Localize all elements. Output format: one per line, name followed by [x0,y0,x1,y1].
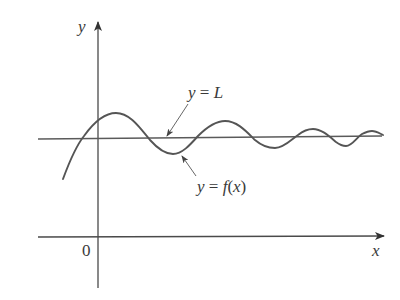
diagram-canvas [0,0,400,300]
asymptote-label-rhs: L [214,83,223,102]
function-curve [63,113,383,179]
asymptote-pointer-arrow [167,104,188,136]
function-label-close: ) [241,177,247,196]
asymptote-label-lhs: y [188,83,196,102]
asymptote-label-eq: = [196,83,214,102]
function-label: y = f(x) [197,178,246,195]
y-axis-label: y [78,18,86,35]
asymptote-label: y = L [188,84,223,101]
function-label-lhs: y [197,177,205,196]
function-label-arg: x [233,177,241,196]
x-axis [38,236,384,237]
function-pointer-arrow [182,156,196,176]
origin-label: 0 [82,242,91,259]
x-axis-label: x [372,242,380,259]
function-label-eq: = [205,177,223,196]
